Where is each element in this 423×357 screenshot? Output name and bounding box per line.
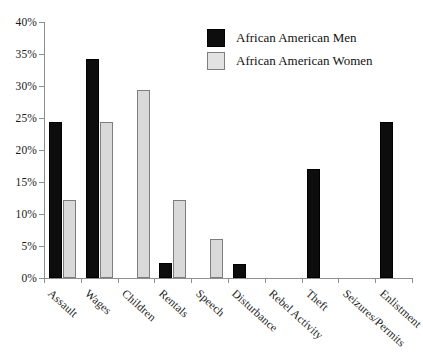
y-axis-tick-label: 5% xyxy=(21,240,37,252)
legend-label: African American Men xyxy=(236,30,357,46)
x-axis-label-seizures-permits: Seizures/Permits xyxy=(341,287,408,349)
x-axis-label-assault: Assault xyxy=(46,287,80,319)
bar-assault-women xyxy=(63,200,76,278)
bar-wages-men xyxy=(86,59,99,278)
x-axis-tick xyxy=(302,278,303,283)
x-axis-label-speech: Speech xyxy=(194,287,227,319)
legend-swatch-men-icon xyxy=(207,29,225,47)
y-axis-line xyxy=(44,22,45,279)
x-axis-tick xyxy=(154,278,155,283)
x-axis-tick xyxy=(265,278,266,283)
x-axis-tick xyxy=(118,278,119,283)
legend: African American MenAfrican American Wom… xyxy=(207,26,373,72)
x-axis-tick xyxy=(375,278,376,283)
bar-disturbance-men xyxy=(233,264,246,278)
x-axis-label-wages: Wages xyxy=(83,287,114,317)
y-axis-tick-label: 35% xyxy=(16,48,37,60)
legend-swatch-women-icon xyxy=(207,52,225,70)
bar-enlistment-men xyxy=(380,122,393,278)
x-axis-tick xyxy=(44,278,45,283)
bar-rentals-women xyxy=(173,200,186,278)
legend-label: African American Women xyxy=(236,53,373,69)
x-axis-label-theft: Theft xyxy=(304,287,331,313)
y-axis-tick xyxy=(39,54,44,55)
y-axis-tick-label: 20% xyxy=(16,144,37,156)
y-axis-tick xyxy=(39,214,44,215)
legend-item-women: African American Women xyxy=(207,49,373,72)
y-axis-tick-label: 40% xyxy=(16,16,37,28)
y-axis-tick-label: 0% xyxy=(21,272,37,284)
bar-speech-women xyxy=(210,239,223,278)
x-axis-tick xyxy=(228,278,229,283)
y-axis-tick xyxy=(39,86,44,87)
bar-assault-men xyxy=(49,122,62,278)
x-axis-tick xyxy=(81,278,82,283)
bar-children-women xyxy=(137,90,150,278)
y-axis-tick-label: 15% xyxy=(16,176,37,188)
x-axis-label-children: Children xyxy=(120,287,159,323)
x-axis-tick xyxy=(191,278,192,283)
y-axis-tick xyxy=(39,118,44,119)
bar-chart: 0%5%10%15%20%25%30%35%40% AssaultWagesCh… xyxy=(0,0,423,357)
y-axis-tick-label: 10% xyxy=(16,208,37,220)
legend-item-men: African American Men xyxy=(207,26,373,49)
y-axis-tick xyxy=(39,182,44,183)
y-axis-tick xyxy=(39,150,44,151)
y-axis-tick xyxy=(39,246,44,247)
x-axis-tick xyxy=(412,278,413,283)
y-axis-tick-label: 25% xyxy=(16,112,37,124)
y-axis-tick xyxy=(39,22,44,23)
bar-rentals-men xyxy=(159,263,172,278)
x-axis-label-rentals: Rentals xyxy=(157,287,191,319)
bar-wages-women xyxy=(100,122,113,278)
y-axis-tick-label: 30% xyxy=(16,80,37,92)
bar-theft-men xyxy=(307,169,320,278)
x-axis-tick xyxy=(338,278,339,283)
